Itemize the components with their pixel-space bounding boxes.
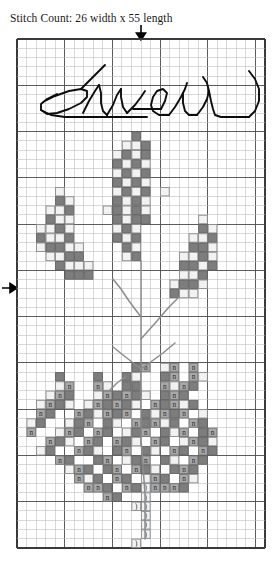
stitch-chart-grid[interactable]: nnnnnnnnnnnnnnnnnnnnnnnnnnnnnnnnnnnnnnnn… — [17, 39, 265, 548]
backstitch-path — [113, 279, 141, 317]
lavender-script-backstitch — [41, 65, 259, 117]
backstitch-path — [209, 91, 249, 117]
backstitch-path — [107, 89, 121, 115]
stem-backstitch — [109, 261, 179, 539]
pattern-page: Stitch Count: 26 width x 55 length nnnnn… — [0, 0, 279, 574]
backstitch-path — [249, 71, 259, 117]
backstitch-path — [141, 297, 179, 339]
backstitch-path — [121, 89, 127, 113]
stitch-count-label: Stitch Count: 26 width x 55 length — [10, 12, 173, 24]
center-row-arrow-icon — [2, 281, 18, 295]
backstitch-path — [41, 89, 87, 114]
backstitch-path — [81, 65, 105, 89]
backstitch-path — [113, 347, 141, 369]
backstitch-path — [109, 377, 125, 391]
backstitch-path — [141, 389, 145, 539]
backstitch-path — [141, 343, 175, 369]
backstitch-path — [151, 89, 169, 115]
backstitch-path — [197, 77, 209, 115]
backstitch-path — [183, 93, 197, 115]
backstitch-layer — [17, 39, 265, 548]
backstitch-path — [99, 85, 107, 115]
